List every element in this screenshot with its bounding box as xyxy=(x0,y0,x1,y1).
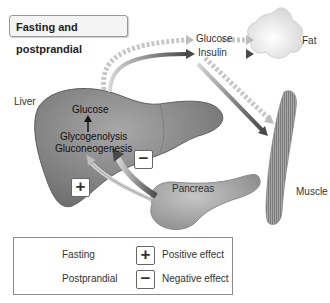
label-glycogenolysis: Glycogenolysis xyxy=(60,131,127,142)
muscle-shape xyxy=(266,91,296,225)
legend-negative-label: Negative effect xyxy=(162,273,229,284)
fat-cell xyxy=(248,8,303,58)
label-glucose-top: Glucose xyxy=(196,33,233,44)
label-liver-glucose: Glucose xyxy=(72,104,109,115)
legend-fasting-label: Fasting xyxy=(62,249,95,260)
legend-postprandial-label: Postprandial xyxy=(62,273,118,284)
label-insulin: Insulin xyxy=(198,47,227,58)
legend-plus-icon: + xyxy=(136,246,155,265)
plus-sign-box: + xyxy=(71,178,90,197)
minus-sign-box: − xyxy=(134,150,153,169)
label-liver: Liver xyxy=(14,96,36,107)
label-muscle: Muscle xyxy=(296,186,328,197)
label-gluconeogenesis: Gluconeogenesis xyxy=(55,143,132,154)
legend-positive-label: Positive effect xyxy=(162,249,224,260)
fasting-arrow-liver-glucose xyxy=(104,40,186,90)
label-pancreas: Pancreas xyxy=(172,183,214,194)
legend-box: Fasting Postprandial + − Positive effect… xyxy=(13,237,233,295)
diagram-title: Fasting and postprandial xyxy=(9,15,128,37)
label-fat: Fat xyxy=(302,35,316,46)
postprandial-arrow-insulin xyxy=(110,54,186,92)
legend-minus-icon: − xyxy=(136,270,155,289)
